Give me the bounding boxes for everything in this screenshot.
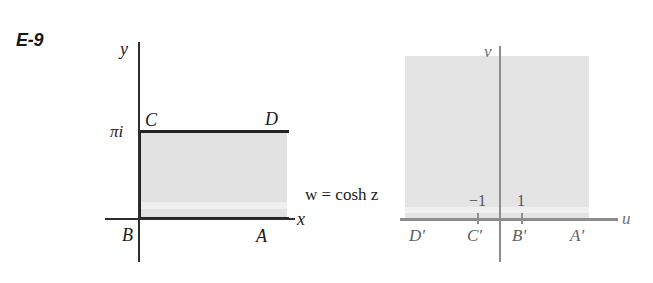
z-plane-strip-top-edge [138, 130, 289, 133]
w-plane-vertex-label-c-prime: C′ [467, 227, 482, 244]
figure-container: E-9 y x πi C D B A w = cosh z [0, 0, 653, 283]
w-plane-tick-label-one: 1 [517, 193, 525, 209]
z-plane-x-axis-label: x [297, 210, 305, 228]
z-plane-vertex-label-a: A [256, 227, 267, 245]
w-plane-u-axis [400, 218, 618, 221]
w-plane-vertex-label-a-prime: A′ [570, 227, 584, 244]
w-plane-vertex-label-b-prime: B′ [512, 227, 526, 244]
z-plane-vertex-label-c: C [145, 111, 157, 129]
w-plane-v-axis [499, 46, 501, 262]
z-plane-pi-i-tick-label: πi [110, 123, 123, 140]
w-plane-v-axis-label: v [484, 43, 492, 60]
w-plane-tick-one [521, 213, 523, 224]
z-plane-vertex-label-d: D [265, 110, 278, 128]
w-plane-tick-minus-one [477, 213, 479, 224]
z-plane-vertex-label-b: B [122, 226, 133, 244]
w-plane-vertex-label-d-prime: D′ [409, 227, 425, 244]
z-plane-strip-highlight-band [140, 202, 287, 209]
z-plane-y-axis [138, 42, 140, 262]
w-plane-highlight-band [405, 207, 589, 213]
w-plane-shaded-half-plane [405, 56, 589, 219]
z-plane-x-axis [105, 218, 295, 220]
w-plane-tick-label-minus-one: −1 [469, 193, 486, 209]
figure-number-label: E-9 [16, 30, 43, 51]
w-plane-u-axis-label: u [622, 210, 631, 227]
z-plane-y-axis-label: y [120, 40, 128, 58]
mapping-formula-label: w = cosh z [305, 186, 378, 203]
